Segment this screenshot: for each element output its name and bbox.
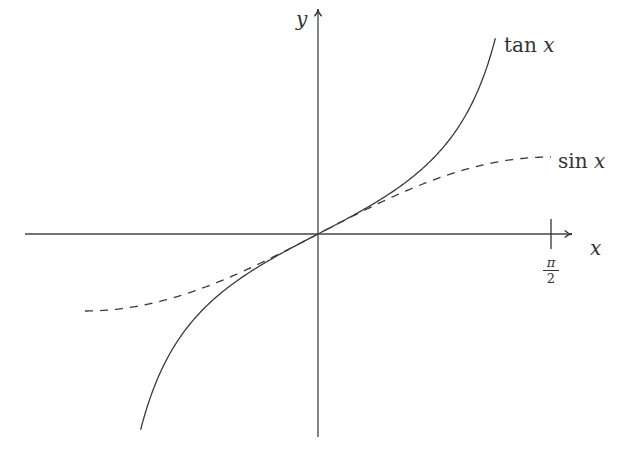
y-axis-label: y — [296, 9, 307, 29]
tan-label: tan x — [504, 35, 554, 55]
x-axis-label: x — [590, 238, 601, 258]
x-tick-label: π 2 — [543, 256, 559, 285]
sin-label-fn: sin — [558, 149, 588, 173]
sin-label: sin x — [558, 151, 605, 171]
plot-canvas — [0, 0, 636, 449]
x-tick-numerator: π — [543, 256, 559, 271]
sin-label-var: x — [594, 149, 605, 173]
tan-label-var: x — [543, 33, 554, 57]
tan-label-fn: tan — [504, 33, 537, 57]
x-tick-denominator: 2 — [543, 271, 559, 285]
